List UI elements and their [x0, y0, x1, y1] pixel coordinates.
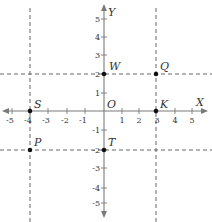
- x-tick-label: 1: [119, 116, 124, 125]
- point-q-label: Q: [160, 60, 169, 73]
- x-tick-labels: -5 -4 -3 -2 -1 1 2 3 4 5: [6, 116, 194, 125]
- x-tick-label: -2: [61, 116, 69, 125]
- y-tick-label: 2: [95, 70, 100, 79]
- x-tick-label: 4: [172, 116, 177, 125]
- y-tick-label: -4: [92, 184, 100, 193]
- y-tick-label: 3: [95, 51, 100, 60]
- point-s-label: S: [34, 98, 42, 111]
- y-tick-label: 1: [95, 89, 100, 98]
- x-axis-label: X: [195, 96, 205, 109]
- y-tick-label: -1: [92, 126, 100, 135]
- x-tick-label: -4: [24, 116, 32, 125]
- axes: [2, 4, 208, 218]
- point-k-marker: [154, 109, 159, 114]
- point-k-label: K: [159, 98, 169, 111]
- x-tick-label: 3: [154, 116, 159, 125]
- point-p-marker: [28, 148, 33, 153]
- point-q-marker: [154, 72, 159, 77]
- y-axis-label: Y: [108, 6, 117, 19]
- y-tick-label: 4: [95, 33, 100, 42]
- x-tick-label: -3: [42, 116, 50, 125]
- point-t-label: T: [108, 136, 117, 149]
- y-tick-label: -5: [92, 199, 100, 208]
- point-s-marker: [28, 109, 33, 114]
- x-tick-label: -1: [79, 116, 87, 125]
- coordinate-plane: -5 -4 -3 -2 -1 1 2 3 4 5 5 4 3 2 1 -1 -2…: [0, 0, 212, 222]
- x-tick-label: -5: [6, 116, 14, 125]
- y-tick-label: -2: [92, 146, 100, 155]
- point-t-marker: [102, 148, 107, 153]
- origin-label: O: [107, 98, 116, 111]
- y-tick-label: 5: [95, 15, 100, 24]
- y-tick-label: -3: [92, 164, 100, 173]
- x-tick-label: 2: [136, 116, 141, 125]
- dashed-guides: [0, 8, 212, 222]
- point-p-label: P: [33, 136, 42, 149]
- x-axis-left-arrow-icon: [2, 108, 9, 114]
- y-axis-down-arrow-icon: [101, 211, 107, 218]
- y-axis-up-arrow-icon: [101, 4, 107, 11]
- x-tick-label: 5: [189, 116, 194, 125]
- point-w-marker: [102, 72, 107, 77]
- point-w-label: W: [109, 60, 122, 73]
